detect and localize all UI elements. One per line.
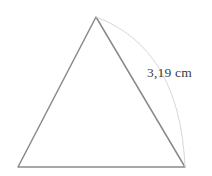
geometry-figure: 3,19 cm: [0, 0, 212, 176]
isosceles-triangle-shape: [18, 17, 185, 167]
figure-drawing-surface: [0, 0, 212, 176]
side-length-label: 3,19 cm: [147, 65, 192, 81]
